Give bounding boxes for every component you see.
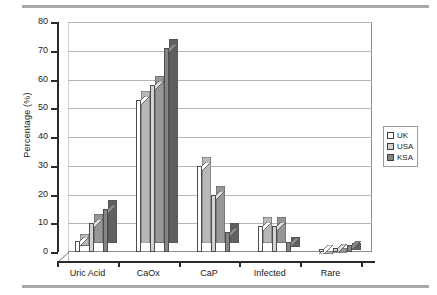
bar-top-face xyxy=(258,217,272,226)
grid-line xyxy=(68,22,372,23)
x-axis-tick xyxy=(57,261,59,267)
legend-item[interactable]: KSA xyxy=(387,152,413,163)
legend-item[interactable]: USA xyxy=(387,141,413,152)
bar-front-face xyxy=(211,195,216,253)
bar-top-face xyxy=(136,91,150,100)
y-axis-tick-label: 60 xyxy=(12,74,48,84)
x-axis-tick-label: CaP xyxy=(179,268,240,278)
grid-line xyxy=(68,51,372,52)
bar-top-face xyxy=(197,157,211,166)
bar-top-face xyxy=(225,223,239,232)
y-axis-tick xyxy=(51,108,58,110)
bar-top-face xyxy=(286,233,300,242)
legend-label: KSA xyxy=(397,153,413,162)
grid-line xyxy=(68,108,372,109)
bar-front-face xyxy=(75,241,80,253)
bar xyxy=(103,200,117,252)
bar-top-face xyxy=(272,217,286,226)
y-axis-tick xyxy=(51,80,58,82)
y-axis-tick-label: 30 xyxy=(12,160,48,170)
x-axis-tick-label: Rare xyxy=(300,268,361,278)
y-axis-tick xyxy=(51,195,58,197)
bar-top-face xyxy=(211,186,225,195)
legend-swatch-uk xyxy=(387,132,394,139)
y-axis-tick xyxy=(51,22,58,24)
bar xyxy=(286,233,300,252)
bar xyxy=(347,236,361,252)
grid-line xyxy=(68,166,372,167)
chart-figure: Percentage (%) 01020304050607080 Uric Ac… xyxy=(0,0,437,295)
bar-side-face xyxy=(141,91,150,243)
grid-line xyxy=(68,137,372,138)
bar xyxy=(258,217,272,252)
bar-top-face xyxy=(164,39,178,48)
bar xyxy=(211,186,225,253)
y-axis-tick-label: 40 xyxy=(12,131,48,141)
bar-front-face xyxy=(319,249,324,252)
x-axis-tick-label: Uric Acid xyxy=(57,268,118,278)
bar-front-face xyxy=(272,226,277,252)
bar-side-face xyxy=(155,76,164,243)
grid-line xyxy=(68,80,372,81)
bar-top-face xyxy=(333,239,347,248)
y-axis-tick-label: 10 xyxy=(12,217,48,227)
bar xyxy=(89,214,103,252)
bar xyxy=(136,91,150,252)
y-axis-tick-label: 80 xyxy=(12,16,48,26)
bar-front-face xyxy=(103,209,108,252)
x-axis-tick-label: Infected xyxy=(239,268,300,278)
bar-front-face xyxy=(197,166,202,252)
bar xyxy=(333,239,347,252)
bar xyxy=(164,39,178,252)
legend-label: UK xyxy=(397,131,408,140)
y-axis-tick xyxy=(51,137,58,139)
bar-front-face xyxy=(333,248,338,252)
x-axis-tick xyxy=(118,261,120,267)
legend-swatch-ksa xyxy=(387,154,394,161)
bar-front-face xyxy=(225,232,230,252)
x-axis-line xyxy=(57,261,375,263)
bar xyxy=(150,76,164,252)
plot-area xyxy=(68,22,372,252)
x-axis-tick-label: CaOx xyxy=(118,268,179,278)
y-axis-tick xyxy=(51,252,58,254)
y-axis-tick xyxy=(51,223,58,225)
bar-top-face xyxy=(89,214,103,223)
bar-front-face xyxy=(164,48,169,252)
y-axis-tick xyxy=(51,166,58,168)
y-axis-tick-label: 50 xyxy=(12,102,48,112)
bar-front-face xyxy=(258,226,263,252)
bar-front-face xyxy=(150,85,155,252)
bar-top-face xyxy=(150,76,164,85)
x-axis-tick xyxy=(179,261,181,267)
bar xyxy=(319,240,333,252)
bar-front-face xyxy=(89,223,94,252)
y-axis-tick xyxy=(51,51,58,53)
bar-top-face xyxy=(319,240,333,249)
x-axis-tick xyxy=(300,261,302,267)
legend-label: USA xyxy=(397,142,413,151)
bar xyxy=(225,223,239,252)
y-axis-tick-label: 0 xyxy=(12,246,48,256)
bar-top-face xyxy=(103,200,117,209)
bar-top-face xyxy=(347,236,361,245)
bar-front-face xyxy=(136,100,141,252)
bar-side-face xyxy=(169,39,178,243)
bar xyxy=(272,217,286,252)
bar xyxy=(75,232,89,253)
bar xyxy=(197,157,211,252)
y-axis-tick-label: 20 xyxy=(12,189,48,199)
chart-legend: UK USA KSA xyxy=(383,126,418,167)
bar-front-face xyxy=(347,245,352,252)
bar-top-face xyxy=(75,232,89,241)
y-axis-tick-label: 70 xyxy=(12,45,48,55)
bar-front-face xyxy=(286,242,291,252)
x-axis-tick xyxy=(239,261,241,267)
legend-item[interactable]: UK xyxy=(387,130,413,141)
x-axis-tick xyxy=(361,261,363,267)
legend-swatch-usa xyxy=(387,143,394,150)
